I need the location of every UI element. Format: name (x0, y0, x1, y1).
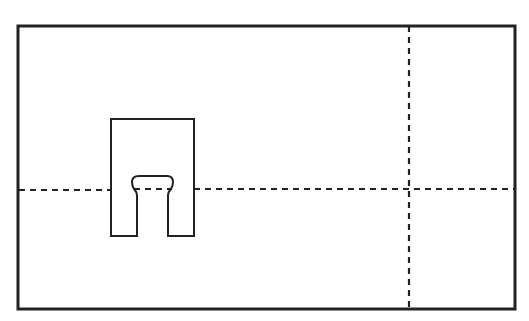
plate-drawing (0, 0, 529, 321)
outer-plate-outline (18, 26, 515, 309)
slotted-tab-outline (111, 119, 194, 236)
diagram-canvas (0, 0, 529, 321)
